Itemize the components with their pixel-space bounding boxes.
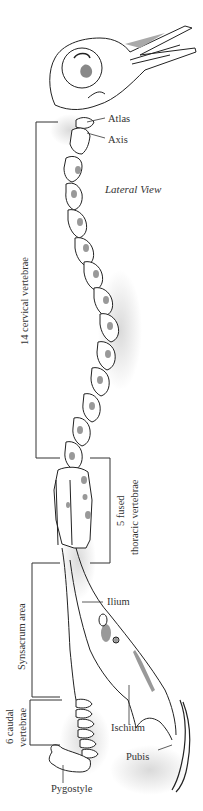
label-ischium: Ischium (111, 723, 145, 734)
label-axis: Axis (108, 135, 128, 146)
bird-skeleton-illustration (0, 0, 203, 811)
label-cervical-vertebrae: 14 cervical vertebrae (20, 257, 31, 345)
label-caudal-line1: 6 caudal (5, 709, 16, 744)
label-ilium: Ilium (107, 597, 130, 608)
label-pubis: Pubis (126, 752, 149, 763)
label-synsacrum: Synsacrum area (17, 603, 28, 670)
label-caudal-line2: vertebrae (18, 708, 29, 747)
label-thoracic-line1: 5 fused (116, 495, 127, 526)
label-pygostyle: Pygostyle (51, 784, 92, 795)
label-thoracic-line2: thoracic vertebrae (130, 480, 141, 556)
view-label: Lateral View (105, 184, 161, 195)
skull (50, 26, 196, 110)
label-atlas: Atlas (108, 114, 130, 125)
